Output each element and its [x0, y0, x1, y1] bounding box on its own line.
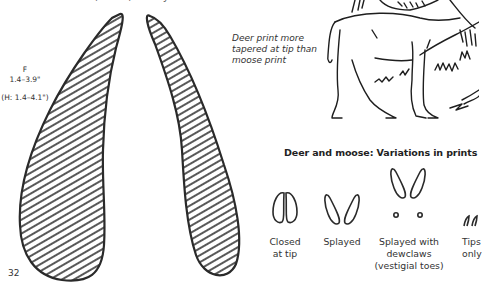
variant-label-splayed: Splayed [318, 236, 366, 248]
foot-label: F [0, 65, 50, 75]
variant-label-closed: Closed at tip [262, 236, 308, 260]
variant-label-tips-only: Tips only [462, 236, 486, 260]
size-label: F 1.4–3.9" (H: 1.4–4.1") [0, 65, 50, 103]
variant-label-splayed-dewclaws: Splayed with dewclaws (vestigial toes) [372, 236, 446, 272]
tips-only-print-icon [462, 214, 479, 228]
deer-hoof-print-icon [0, 0, 260, 283]
front-size-range: 1.4–3.9" [0, 75, 50, 85]
splayed-print-icon [322, 192, 362, 228]
page-number: 32 [8, 268, 19, 278]
hind-size-range: (H: 1.4–4.1") [0, 93, 50, 103]
splayed-dewclaws-print-icon [388, 166, 428, 222]
variations-title: Deer and moose: Variations in prints [284, 147, 477, 158]
deer-illustration-icon [300, 0, 479, 130]
closed-tip-print-icon [270, 190, 300, 226]
